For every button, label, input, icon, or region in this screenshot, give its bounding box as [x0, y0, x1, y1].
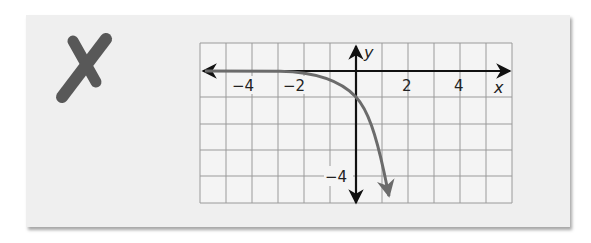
x-tick-neg4: −4	[232, 77, 254, 95]
x-tick-4: 4	[454, 77, 464, 95]
x-tick-2: 2	[402, 77, 412, 95]
y-axis-label: y	[363, 43, 374, 62]
y-tick-neg4: −4	[325, 168, 347, 186]
x-tick-neg2: −2	[283, 77, 305, 95]
x-axis-label: x	[493, 78, 504, 97]
exponential-graph: −4 −2 2 4 x y −4	[0, 0, 591, 243]
